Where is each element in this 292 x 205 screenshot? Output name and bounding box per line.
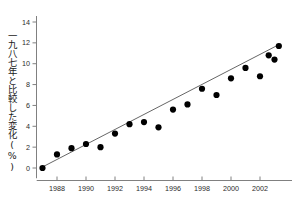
y-tick-label: 6 — [26, 101, 30, 110]
x-tick-label: 1994 — [136, 184, 152, 193]
data-point — [170, 107, 176, 113]
y-tick-label: 2 — [26, 143, 30, 152]
data-point — [276, 43, 282, 49]
x-axis: 19881990199219941996199820002002 — [37, 177, 292, 194]
data-point — [184, 101, 190, 107]
data-point — [271, 56, 277, 62]
y-tick-label: 0 — [26, 164, 30, 173]
data-point — [213, 92, 219, 98]
x-tick-label: 2002 — [252, 184, 268, 193]
data-point — [266, 52, 272, 58]
y-tick-label: 10 — [22, 59, 30, 68]
x-tick-label: 1996 — [165, 184, 181, 193]
data-point — [39, 165, 45, 171]
data-point — [257, 73, 263, 79]
data-point — [199, 86, 205, 92]
data-point — [54, 151, 60, 157]
data-point — [112, 130, 118, 136]
x-tick-label: 1988 — [49, 184, 65, 193]
data-point — [97, 144, 103, 150]
data-point — [242, 65, 248, 71]
x-tick-label: 1998 — [194, 184, 210, 193]
y-tick-label: 8 — [26, 80, 30, 89]
data-point — [68, 145, 74, 151]
data-point — [155, 124, 161, 130]
y-tick-label: 12 — [22, 38, 30, 47]
y-tick-label: 4 — [26, 122, 30, 131]
trend-line — [43, 44, 281, 167]
data-point — [126, 121, 132, 127]
y-axis-label: 一九八七年と比較した変化(%) — [2, 26, 22, 176]
x-tick-label: 1992 — [107, 184, 123, 193]
scatter-plot: 02468101214 1988199019921994199619982000… — [0, 0, 292, 205]
x-tick-label: 2000 — [223, 184, 239, 193]
regression-line — [43, 44, 281, 167]
data-point — [228, 75, 234, 81]
y-axis-label-text: 一九八七年と比較した変化(%) — [7, 31, 16, 172]
chart-container: 一九八七年と比較した変化(%) 02468101214 198819901992… — [0, 0, 292, 205]
y-axis: 02468101214 — [22, 16, 37, 178]
data-point — [83, 141, 89, 147]
x-tick-label: 1990 — [78, 184, 94, 193]
data-point — [141, 119, 147, 125]
y-tick-label: 14 — [22, 18, 30, 27]
